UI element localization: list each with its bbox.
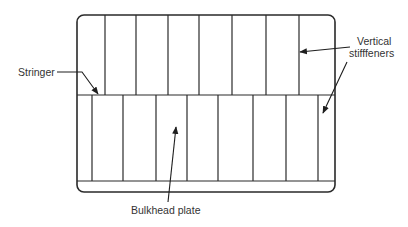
diagram-canvas: Stringer Vertical stifffeners Bulkhead p… xyxy=(0,0,408,227)
bulkhead-plate-label: Bulkhead plate xyxy=(131,204,201,216)
bulkhead-frame xyxy=(77,15,335,192)
stringer-callout: Stringer xyxy=(18,66,98,94)
top-panel-stiffeners xyxy=(105,15,299,95)
bulkhead-plate-arrow-icon xyxy=(168,127,176,202)
stringer-label: Stringer xyxy=(18,66,55,78)
bottom-panel-stiffeners xyxy=(92,95,318,181)
vertical-stiffeners-label-line1: Vertical xyxy=(357,35,391,47)
stiffener-arrow-top-icon xyxy=(300,47,350,52)
vertical-stiffeners-label-line2: stifffeners xyxy=(349,47,394,59)
bulkhead-plate-callout: Bulkhead plate xyxy=(131,127,201,216)
bulkhead-diagram: Stringer Vertical stifffeners Bulkhead p… xyxy=(0,0,408,227)
vertical-stiffeners-callout: Vertical stifffeners xyxy=(300,35,394,113)
